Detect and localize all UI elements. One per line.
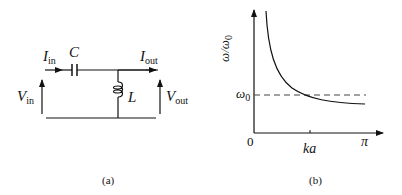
- label-v-in: Vin: [17, 89, 34, 106]
- caption-a: (a): [102, 174, 114, 186]
- label-l: L: [128, 90, 136, 105]
- circuit-diagram: [42, 64, 160, 118]
- label-i-in: Iin: [43, 49, 56, 66]
- figure-canvas: [0, 0, 402, 195]
- label-i-out: Iout: [140, 49, 158, 66]
- inductor-coil: [114, 82, 123, 97]
- dispersion-plot: [254, 10, 383, 133]
- y-axis-label: ω/ω0: [218, 35, 234, 62]
- origin-label: 0: [247, 135, 254, 148]
- x-axis-label: ka: [303, 142, 316, 156]
- omega0-tick-label: ω0: [236, 87, 250, 103]
- label-c: C: [69, 45, 79, 60]
- pi-tick-label: π: [361, 135, 368, 149]
- label-v-out: Vout: [166, 89, 188, 106]
- dispersion-curve: [266, 11, 365, 104]
- caption-b: (b): [309, 174, 322, 186]
